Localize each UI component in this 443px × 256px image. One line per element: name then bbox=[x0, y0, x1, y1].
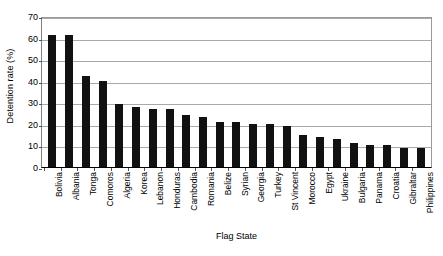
x-label-slot: Ukraine bbox=[329, 170, 346, 228]
x-axis-title: Flag State bbox=[41, 231, 432, 241]
bar-slot bbox=[44, 18, 61, 167]
bar-slot bbox=[128, 18, 145, 167]
bar-slot bbox=[211, 18, 228, 167]
bar bbox=[299, 135, 307, 167]
bar-chart: Detention rate (%) 010203040506070 Boliv… bbox=[0, 0, 443, 256]
bar bbox=[149, 109, 157, 167]
x-label-slot: Bulgaria bbox=[346, 170, 363, 228]
bar bbox=[333, 139, 341, 167]
bar-slot bbox=[61, 18, 78, 167]
x-label-slot: Egypt bbox=[312, 170, 329, 228]
y-tick-label: 50 bbox=[18, 55, 38, 65]
x-label-slot: Romania bbox=[194, 170, 211, 228]
bar bbox=[283, 126, 291, 167]
y-axis-title: Detention rate (%) bbox=[2, 0, 18, 172]
bar-slot bbox=[362, 18, 379, 167]
x-label-slot: St Vincent bbox=[279, 170, 296, 228]
bar bbox=[199, 117, 207, 167]
bar bbox=[82, 76, 90, 167]
bar-slot bbox=[395, 18, 412, 167]
x-label-slot: Albania bbox=[60, 170, 77, 228]
x-label-slot: Cambodia bbox=[178, 170, 195, 228]
bar bbox=[99, 81, 107, 167]
x-label-slot: Syrian bbox=[228, 170, 245, 228]
x-label-slot: Bolivia bbox=[43, 170, 60, 228]
x-label-slot: Comoros bbox=[93, 170, 110, 228]
bar-series bbox=[42, 18, 431, 167]
x-label-slot: Gibraltar bbox=[396, 170, 413, 228]
x-label-slot: Croatia bbox=[380, 170, 397, 228]
x-label-slot: Korea bbox=[127, 170, 144, 228]
bar-slot bbox=[312, 18, 329, 167]
bar bbox=[115, 104, 123, 167]
x-label-slot: Morocco bbox=[295, 170, 312, 228]
bar-slot bbox=[262, 18, 279, 167]
bar bbox=[232, 122, 240, 167]
bar bbox=[383, 145, 391, 167]
bar-slot bbox=[245, 18, 262, 167]
bar bbox=[316, 137, 324, 167]
bar-slot bbox=[278, 18, 295, 167]
x-label-slot: Panama bbox=[363, 170, 380, 228]
bar-slot bbox=[111, 18, 128, 167]
y-tick-label: 10 bbox=[18, 141, 38, 151]
bar-slot bbox=[228, 18, 245, 167]
bar-slot bbox=[161, 18, 178, 167]
bar bbox=[166, 109, 174, 167]
bar-slot bbox=[412, 18, 429, 167]
bar-slot bbox=[195, 18, 212, 167]
bar-slot bbox=[328, 18, 345, 167]
bar bbox=[350, 143, 358, 167]
x-tick-label: Philippines bbox=[426, 172, 435, 213]
bar-slot bbox=[94, 18, 111, 167]
bar-slot bbox=[295, 18, 312, 167]
x-label-slot: Georgia bbox=[245, 170, 262, 228]
bar bbox=[366, 145, 374, 167]
bar-slot bbox=[144, 18, 161, 167]
y-axis-title-text: Detention rate (%) bbox=[5, 49, 15, 124]
bar-slot bbox=[345, 18, 362, 167]
x-label-slot: Honduras bbox=[161, 170, 178, 228]
bar bbox=[417, 148, 425, 167]
y-tick-label: 70 bbox=[18, 12, 38, 22]
y-tick-label: 40 bbox=[18, 77, 38, 87]
y-tick-label: 0 bbox=[18, 163, 38, 173]
bar-slot bbox=[178, 18, 195, 167]
bar-slot bbox=[379, 18, 396, 167]
x-label-slot: Tonga bbox=[77, 170, 94, 228]
bar bbox=[216, 122, 224, 167]
bar bbox=[65, 35, 73, 167]
bar-slot bbox=[77, 18, 94, 167]
x-axis-tick-labels: BoliviaAlbaniaTongaComorosAlgeriaKoreaLe… bbox=[41, 170, 432, 228]
y-tick-label: 60 bbox=[18, 34, 38, 44]
bar bbox=[48, 35, 56, 167]
bar bbox=[132, 107, 140, 167]
plot-area bbox=[41, 17, 432, 168]
bar bbox=[266, 124, 274, 167]
bar bbox=[249, 124, 257, 167]
bar bbox=[400, 148, 408, 167]
x-label-slot: Algeria bbox=[110, 170, 127, 228]
x-label-slot: Lebanon bbox=[144, 170, 161, 228]
bar bbox=[182, 115, 190, 167]
x-label-slot: Turkey bbox=[262, 170, 279, 228]
x-label-slot: Philippines bbox=[413, 170, 430, 228]
y-axis-tick-labels: 010203040506070 bbox=[18, 11, 38, 173]
y-tick-label: 20 bbox=[18, 120, 38, 130]
y-tick-label: 30 bbox=[18, 98, 38, 108]
x-label-slot: Belize bbox=[211, 170, 228, 228]
